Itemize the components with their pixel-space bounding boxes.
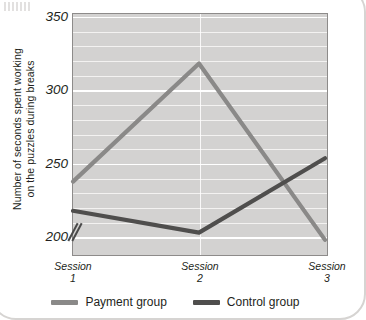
x-tick-number: 1: [54, 272, 91, 284]
legend-item[interactable]: Payment group: [51, 295, 166, 309]
x-tick-number: 2: [181, 272, 218, 284]
corner-smudge-mark: [4, 2, 30, 11]
y-axis-tick-label: 200: [45, 230, 68, 245]
y-axis-title-line2: on the puzzles during breaks: [23, 48, 36, 210]
x-tick-word: Session: [181, 260, 218, 272]
y-axis-title: Number of seconds spent working on the p…: [8, 26, 38, 232]
plot-area: 350300250200: [72, 13, 328, 256]
chart-legend: Payment groupControl group: [0, 295, 351, 309]
y-axis-tick-label: 350: [45, 9, 68, 24]
x-axis-tick-label: Session1: [54, 260, 91, 284]
legend-label: Control group: [227, 295, 300, 309]
series-line: [73, 64, 325, 240]
y-axis-tick-label: 250: [45, 156, 68, 171]
x-axis-tick-label: Session2: [181, 260, 218, 284]
legend-item[interactable]: Control group: [193, 295, 300, 309]
x-tick-number: 3: [308, 272, 345, 284]
y-axis-tick-label: 300: [45, 83, 68, 98]
x-axis-tick-label: Session3: [308, 260, 345, 284]
x-tick-word: Session: [54, 260, 91, 272]
data-series-lines: [73, 14, 327, 255]
series-line: [73, 158, 325, 232]
y-axis-title-line1: Number of seconds spent working: [11, 48, 24, 210]
x-tick-word: Session: [308, 260, 345, 272]
legend-line-swatch: [51, 300, 78, 305]
legend-label: Payment group: [85, 295, 166, 309]
legend-line-swatch: [193, 300, 220, 305]
